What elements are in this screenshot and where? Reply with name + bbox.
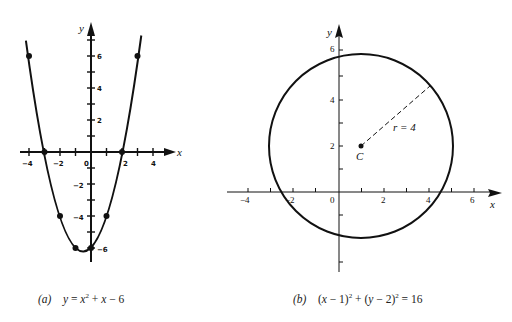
origin-label: 0 bbox=[330, 195, 335, 205]
xtick-label: 4 bbox=[426, 195, 431, 205]
caption-b-text: = 16 bbox=[399, 293, 423, 305]
radius-label: r = 4 bbox=[393, 121, 416, 133]
figure-canvas: −4 −2 0 2 4 6 4 2 −2 −4 −6 x y bbox=[0, 0, 512, 322]
ytick-label: 4 bbox=[97, 85, 102, 93]
xtick-label: 2 bbox=[123, 160, 128, 168]
center-label: C bbox=[356, 150, 364, 162]
ytick-label: 2 bbox=[97, 117, 102, 125]
y-ticks-b bbox=[339, 50, 343, 262]
xtick-label: −2 bbox=[53, 160, 64, 168]
ytick-label: 6 bbox=[330, 44, 335, 54]
origin-label: 0 bbox=[84, 160, 89, 168]
x-axis-label: x bbox=[489, 198, 495, 210]
x-axis-arrow-a bbox=[164, 148, 176, 156]
y-axis-label: y bbox=[78, 22, 84, 34]
y-axis-label: y bbox=[326, 26, 332, 38]
ytick-label: −6 bbox=[97, 246, 108, 254]
panel-a-parabola: −4 −2 0 2 4 6 4 2 −2 −4 −6 x y bbox=[20, 22, 182, 262]
radius-line bbox=[361, 86, 430, 146]
caption-a: (a) y = x2 + x − 6 bbox=[38, 292, 124, 305]
ytick-label: 4 bbox=[330, 95, 335, 105]
ytick-label: 2 bbox=[330, 141, 335, 151]
center-point bbox=[359, 144, 364, 149]
panel-b-circle: −4 −2 0 2 4 6 6 4 2 x y C r = 4 bbox=[227, 24, 502, 272]
y-axis-arrow-a bbox=[87, 22, 95, 36]
xtick-label: 2 bbox=[381, 195, 386, 205]
y-axis-arrow-b bbox=[335, 24, 343, 38]
caption-a-text: = bbox=[68, 293, 80, 305]
caption-a-text: − 6 bbox=[106, 293, 124, 305]
ytick-label: −2 bbox=[73, 182, 84, 190]
caption-b-tag: (b) bbox=[293, 293, 306, 305]
xtick-label: 6 bbox=[470, 195, 475, 205]
xtick-label: −4 bbox=[22, 160, 33, 168]
caption-b-text: − 2) bbox=[373, 293, 395, 305]
caption-a-tag: (a) bbox=[38, 293, 51, 305]
x-axis-arrow-b bbox=[488, 189, 502, 197]
caption-b: (b) (x − 1)2 + (y − 2)2 = 16 bbox=[293, 292, 422, 305]
ytick-label: 6 bbox=[97, 53, 102, 61]
caption-b-text: − 1) bbox=[327, 293, 349, 305]
xtick-label: −4 bbox=[240, 195, 250, 205]
caption-a-text: + bbox=[89, 293, 101, 305]
caption-b-text: + ( bbox=[352, 293, 368, 305]
xtick-label: 4 bbox=[151, 160, 156, 168]
ytick-label: −4 bbox=[73, 214, 84, 222]
x-axis-label: x bbox=[176, 146, 182, 158]
